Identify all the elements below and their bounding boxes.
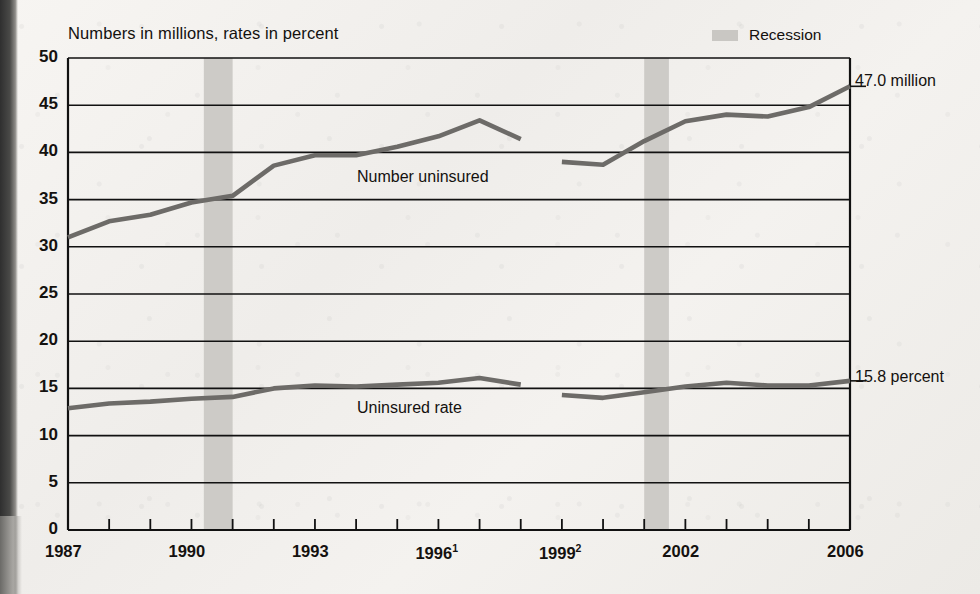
- y-tick-label: 40: [24, 141, 58, 161]
- series-label-number-uninsured: Number uninsured: [357, 168, 489, 186]
- callout-leaders: [850, 86, 866, 381]
- annotation-number-end: 47.0 million: [855, 72, 936, 90]
- x-tick-label: 1990: [168, 542, 205, 561]
- x-axis-ticks: [68, 519, 850, 530]
- uninsured-chart: Numbers in millions, rates in percent Re…: [0, 0, 980, 594]
- x-tick-label: 1987: [45, 542, 82, 561]
- x-tick-label: 2006: [827, 542, 864, 561]
- y-tick-label: 0: [24, 519, 58, 539]
- y-tick-label: 5: [24, 472, 58, 492]
- y-tick-label: 30: [24, 236, 58, 256]
- x-tick-label: 1993: [292, 542, 329, 561]
- annotation-rate-end: 15.8 percent: [855, 368, 944, 386]
- y-tick-label: 35: [24, 189, 58, 209]
- plot-svg: [0, 0, 980, 594]
- x-tick-label: 19992: [539, 542, 582, 563]
- y-tick-label: 50: [24, 47, 58, 67]
- x-tick-label: 2002: [662, 542, 699, 561]
- gridlines: [68, 58, 850, 483]
- y-tick-label: 25: [24, 283, 58, 303]
- x-tick-label: 19961: [415, 542, 458, 563]
- y-tick-label: 10: [24, 425, 58, 445]
- y-tick-label: 45: [24, 94, 58, 114]
- y-tick-label: 15: [24, 377, 58, 397]
- y-tick-label: 20: [24, 330, 58, 350]
- series-label-uninsured-rate: Uninsured rate: [357, 399, 462, 417]
